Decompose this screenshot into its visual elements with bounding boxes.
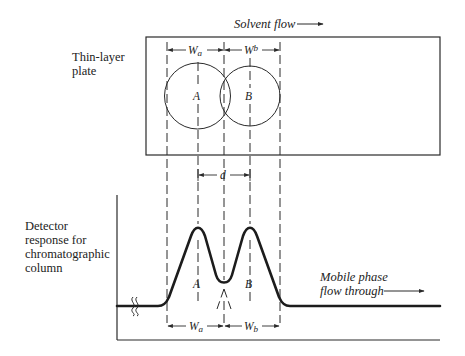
distance-label: d <box>220 169 226 181</box>
chromatography-resolution-diagram: Solvent flow Thin-layer plate A B Wa Wb … <box>0 0 465 356</box>
chromatogram-curve <box>117 228 440 306</box>
plate-width-a-label: Wa <box>188 44 203 58</box>
plate-label-line2: plate <box>72 64 97 78</box>
detector-label-line1: Detector <box>25 219 69 233</box>
valley-split-left <box>217 289 224 309</box>
mobile-phase-label-line2: flow through <box>320 284 384 298</box>
mobile-phase-label-line1: Mobile phase <box>319 270 388 284</box>
peak-b-label: B <box>245 278 252 290</box>
plate-width-b-label: Wb <box>244 43 259 56</box>
detector-label-line4: column <box>25 261 63 275</box>
detector-label-line2: response for <box>25 233 87 247</box>
spot-b-label: B <box>245 90 252 102</box>
peak-width-b-label: Wb <box>244 320 259 334</box>
valley-split-right <box>224 289 231 309</box>
solvent-flow-label: Solvent flow <box>234 17 296 31</box>
peak-width-a-label: Wa <box>189 320 204 334</box>
peak-a-label: A <box>192 278 201 290</box>
spot-a-label: A <box>192 90 201 102</box>
detector-label-line3: chromatographic <box>25 247 110 261</box>
plate-label-line1: Thin-layer <box>72 50 126 64</box>
